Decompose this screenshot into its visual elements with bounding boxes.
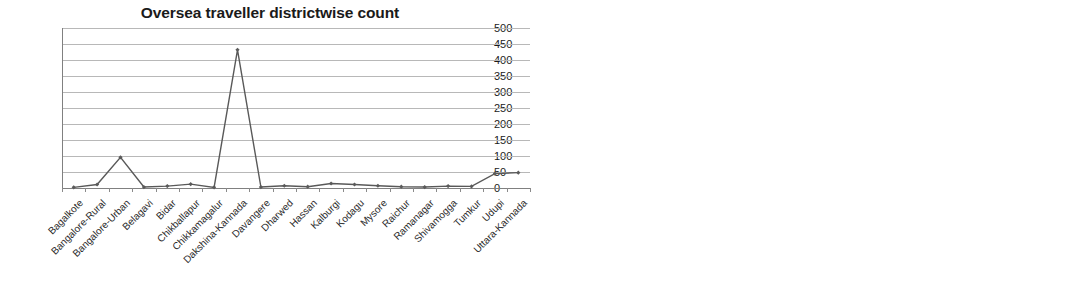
x-tick <box>319 188 320 192</box>
x-tick <box>413 188 414 192</box>
x-tick <box>249 188 250 192</box>
x-tick <box>343 188 344 192</box>
x-tick <box>85 188 86 192</box>
x-tick <box>366 188 367 192</box>
chart-page: Oversea traveller districtwise count 050… <box>0 0 1078 296</box>
x-tick <box>460 188 461 192</box>
x-tick <box>507 188 508 192</box>
data-point-marker <box>282 184 286 188</box>
data-point-marker <box>329 181 333 185</box>
data-point-marker <box>446 184 450 188</box>
data-point-marker <box>165 184 169 188</box>
data-point-marker <box>352 182 356 186</box>
x-tick <box>390 188 391 192</box>
plot-left: 050100150200250300350400450500 <box>22 28 530 188</box>
chart-panel-left: Oversea traveller districtwise count 050… <box>0 0 540 296</box>
data-point-marker <box>376 184 380 188</box>
x-tick <box>530 188 531 192</box>
chart-title-left: Oversea traveller districtwise count <box>0 4 540 22</box>
data-point-marker <box>516 171 520 175</box>
plot-area-left <box>62 28 530 188</box>
x-tick <box>436 188 437 192</box>
x-tick <box>273 188 274 192</box>
x-tick <box>296 188 297 192</box>
x-tick <box>156 188 157 192</box>
x-tick <box>226 188 227 192</box>
data-point-marker <box>189 182 193 186</box>
x-tick <box>109 188 110 192</box>
x-tick <box>179 188 180 192</box>
data-point-marker <box>235 48 239 52</box>
series-line <box>74 50 519 188</box>
x-tick <box>62 188 63 192</box>
data-series <box>62 28 530 188</box>
x-tick <box>202 188 203 192</box>
chart-panel-right: 0200400600800100012001400 BagalkoteBanga… <box>538 0 1078 296</box>
x-tick <box>483 188 484 192</box>
x-tick <box>132 188 133 192</box>
